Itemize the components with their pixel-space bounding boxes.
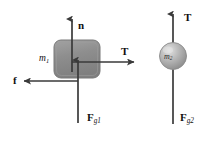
mass-label-ball: m2 bbox=[164, 53, 172, 62]
tension-label-block: T bbox=[121, 46, 128, 57]
mass-label-block-sub: 1 bbox=[46, 57, 49, 64]
mass-label-ball-sub: 2 bbox=[170, 55, 173, 61]
gravity-label-ball-sub: g2 bbox=[187, 117, 194, 125]
diagram-canvas bbox=[0, 0, 203, 144]
gravity-label-block: Fg1 bbox=[87, 112, 101, 125]
friction-label: f bbox=[13, 75, 17, 86]
gravity-label-ball: Fg2 bbox=[180, 112, 194, 125]
tension-label-ball: T bbox=[184, 12, 191, 23]
mass-label-block: m1 bbox=[39, 54, 49, 64]
gravity-label-block-sub: g1 bbox=[94, 117, 101, 125]
free-body-diagram: n T f Fg1 m1 T Fg2 m2 bbox=[0, 0, 203, 144]
block-body-group bbox=[54, 40, 100, 78]
normal-force-label: n bbox=[78, 20, 84, 31]
block-m1 bbox=[54, 40, 100, 78]
